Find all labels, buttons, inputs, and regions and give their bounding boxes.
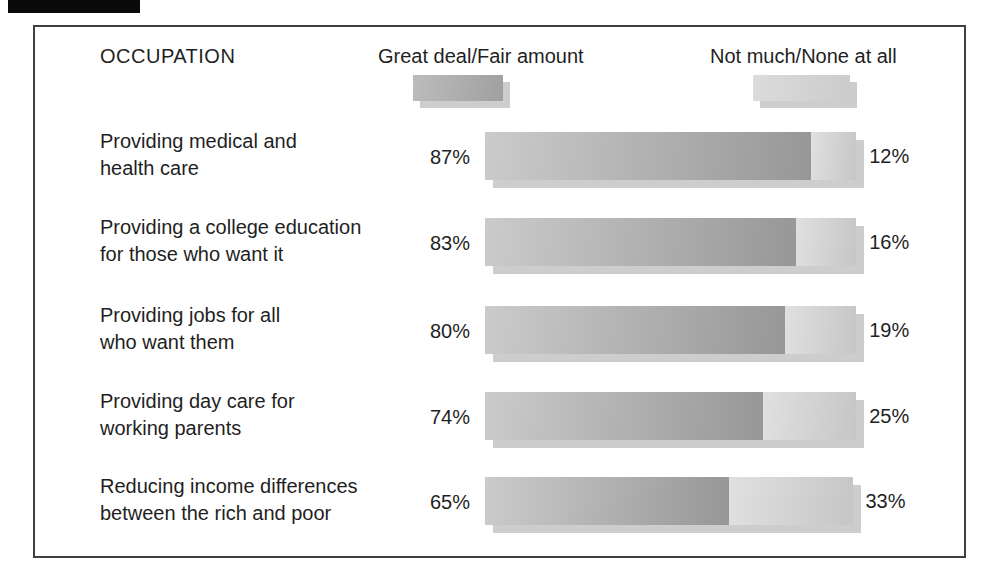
left-percent-label: 65% [385,477,470,525]
bar-segment-not-much [785,306,856,354]
chart-row: Providing medical and health care 87% 12… [35,132,964,180]
category-label: Providing medical and health care [100,128,420,182]
chart-row: Providing jobs for all who want them 80%… [35,306,964,354]
category-label-line: Reducing income differences [100,473,420,500]
bar-area: 33% [485,477,906,525]
category-label: Providing a college education for those … [100,214,420,268]
bar-segment-great-deal [485,218,796,266]
right-percent-label: 33% [866,477,906,525]
category-label-line: Providing a college education [100,214,420,241]
left-percent-label: 74% [385,392,470,440]
right-percent-label: 16% [869,218,909,266]
category-label-line: working parents [100,415,420,442]
chart-frame: OCCUPATION Great deal/Fair amount Not mu… [33,25,966,558]
category-label-line: between the rich and poor [100,500,420,527]
scan-artifact-bar [8,0,140,13]
bar-segment-great-deal [485,132,811,180]
stacked-bar [485,132,856,180]
category-label: Providing day care for working parents [100,388,420,442]
bar-segment-not-much [763,392,857,440]
legend-label-not-much: Not much/None at all [710,45,897,68]
bar-area: 12% [485,132,909,180]
bar-segment-great-deal [485,306,785,354]
stacked-bar [485,392,856,440]
stacked-bar [485,306,856,354]
stacked-bar [485,218,856,266]
bar-area: 16% [485,218,909,266]
bar-segment-great-deal [485,392,763,440]
left-percent-label: 83% [385,218,470,266]
bar-segment-great-deal [485,477,729,525]
category-label-line: health care [100,155,420,182]
category-label-line: who want them [100,329,420,356]
right-percent-label: 12% [869,132,909,180]
stacked-bar [485,477,853,525]
right-percent-label: 25% [869,392,909,440]
category-label: Providing jobs for all who want them [100,302,420,356]
chart-row: Providing a college education for those … [35,218,964,266]
bar-segment-not-much [796,218,856,266]
bar-area: 19% [485,306,909,354]
category-label-line: Providing medical and [100,128,420,155]
bar-segment-not-much [811,132,856,180]
right-percent-label: 19% [869,306,909,354]
bar-segment-not-much [729,477,853,525]
left-percent-label: 87% [385,132,470,180]
legend-swatch-not-much [753,75,850,101]
category-label-line: Providing jobs for all [100,302,420,329]
category-label-line: Providing day care for [100,388,420,415]
chart-title: OCCUPATION [100,45,235,68]
chart-row: Providing day care for working parents 7… [35,392,964,440]
left-percent-label: 80% [385,306,470,354]
category-label: Reducing income differences between the … [100,473,420,527]
chart-row: Reducing income differences between the … [35,477,964,525]
bar-area: 25% [485,392,909,440]
category-label-line: for those who want it [100,241,420,268]
legend-swatch-great-deal [413,75,503,101]
legend-label-great-deal: Great deal/Fair amount [378,45,584,68]
